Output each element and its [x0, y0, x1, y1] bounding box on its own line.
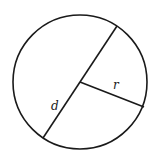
diameter-label: d — [51, 99, 59, 113]
radius-label: r — [113, 78, 120, 92]
radius-line — [80, 82, 144, 107]
circle-diagram: d r — [0, 0, 154, 157]
